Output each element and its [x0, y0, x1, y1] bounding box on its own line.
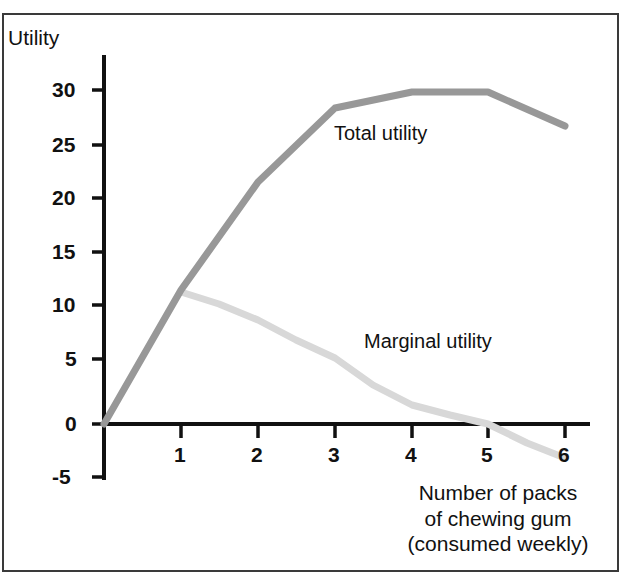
- y-axis-title: Utility: [8, 27, 59, 48]
- y-tick-label-30: 30: [52, 79, 75, 100]
- x-tick-label-5: 5: [481, 444, 493, 465]
- x-tick-label-2: 2: [251, 444, 263, 465]
- y-tick-label-minus5: -5: [52, 466, 71, 487]
- series-annotation-marginal-utility: Marginal utility: [364, 331, 492, 351]
- x-tick-label-4: 4: [405, 444, 417, 465]
- y-tick-label-25: 25: [52, 134, 75, 155]
- x-axis-caption: Number of packs of chewing gum (consumed…: [382, 480, 614, 557]
- x-tick-label-3: 3: [328, 444, 340, 465]
- y-tick-label-10: 10: [52, 294, 75, 315]
- x-tick-label-1: 1: [174, 444, 186, 465]
- y-tick-label-5: 5: [65, 348, 77, 369]
- x-tick-label-6: 6: [558, 444, 570, 465]
- series-annotation-total-utility: Total utility: [334, 123, 427, 143]
- y-tick-label-15: 15: [52, 241, 75, 262]
- x-axis-caption-line-3: (consumed weekly): [382, 531, 614, 557]
- x-axis-caption-line-1: Number of packs: [382, 480, 614, 506]
- y-tick-label-20: 20: [52, 187, 75, 208]
- chart-figure: Utility 30 25 20 15 10 5 0 -5 1 2 3 4 5 …: [0, 0, 631, 587]
- y-tick-label-0: 0: [65, 413, 77, 434]
- series-line-marginal-utility: [181, 292, 565, 458]
- x-axis-caption-line-2: of chewing gum: [382, 506, 614, 532]
